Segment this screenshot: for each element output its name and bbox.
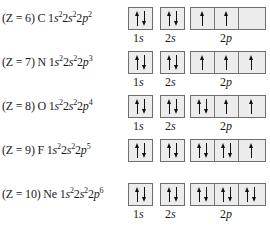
- electron-configuration: (Z = 9) F 1s22s22p5: [2, 143, 90, 158]
- spin-up-arrow-icon: [135, 11, 140, 26]
- label-1s: 1s: [133, 119, 144, 134]
- element-row-o: (Z = 8) O 1s22s22p41s2s2p: [0, 95, 270, 139]
- spin-up-arrow-icon: [197, 143, 202, 158]
- element-row-ne: (Z = 10) Ne 1s22s22p61s2s2p: [0, 183, 270, 227]
- element-symbol: F: [38, 143, 47, 157]
- orbital-box-1s: [128, 95, 153, 118]
- spin-down-arrow-icon: [228, 187, 233, 202]
- orbital-box-2s: [160, 95, 185, 118]
- label-2s: 2s: [165, 75, 176, 90]
- spin-up-arrow-icon: [135, 55, 140, 70]
- element-symbol: C: [38, 11, 49, 25]
- spin-up-arrow-icon: [167, 55, 172, 70]
- spin-up-arrow-icon: [249, 55, 254, 70]
- atomic-number: (Z = 8): [2, 99, 38, 113]
- orbital-cell: [215, 184, 239, 205]
- orbital-cell: [129, 52, 152, 73]
- orbital-box-2s: [160, 7, 185, 30]
- orbital-box-2p: [190, 7, 266, 30]
- orbital-cell: [239, 8, 263, 29]
- label-2p: 2p: [220, 119, 232, 134]
- spin-down-arrow-icon: [174, 187, 179, 202]
- orbital-cell: [129, 140, 152, 161]
- orbital-box-2s: [160, 183, 185, 206]
- label-1s: 1s: [133, 31, 144, 46]
- label-2s: 2s: [165, 31, 176, 46]
- spin-up-arrow-icon: [200, 55, 205, 70]
- element-row-c: (Z = 6) C 1s22s22p21s2s2p: [0, 7, 270, 51]
- orbital-cell: [161, 96, 184, 117]
- orbital-cell: [191, 52, 215, 73]
- spin-up-arrow-icon: [249, 143, 254, 158]
- orbital-cell: [161, 184, 184, 205]
- orbital-box-2p: [190, 95, 266, 118]
- spin-down-arrow-icon: [142, 11, 147, 26]
- orbital-cell: [129, 184, 152, 205]
- spin-up-arrow-icon: [221, 187, 226, 202]
- spin-down-arrow-icon: [204, 187, 209, 202]
- spin-up-arrow-icon: [135, 99, 140, 114]
- spin-down-arrow-icon: [174, 99, 179, 114]
- orbital-box-1s: [128, 139, 153, 162]
- orbital-cell: [239, 140, 263, 161]
- spin-down-arrow-icon: [174, 11, 179, 26]
- orbital-cell: [215, 96, 239, 117]
- orbital-box-2p: [190, 139, 266, 162]
- spin-up-arrow-icon: [221, 143, 226, 158]
- orbital-box-2p: [190, 51, 266, 74]
- orbital-box-1s: [128, 7, 153, 30]
- spin-up-arrow-icon: [197, 99, 202, 114]
- spin-up-arrow-icon: [167, 143, 172, 158]
- spin-up-arrow-icon: [135, 143, 140, 158]
- electron-configuration: (Z = 7) N 1s22s22p3: [2, 55, 92, 70]
- orbital-box-2p: [190, 183, 266, 206]
- orbital-box-1s: [128, 183, 153, 206]
- spin-up-arrow-icon: [245, 187, 250, 202]
- orbital-cell: [161, 52, 184, 73]
- orbital-box-2s: [160, 51, 185, 74]
- spin-up-arrow-icon: [167, 11, 172, 26]
- orbital-cell: [129, 96, 152, 117]
- spin-down-arrow-icon: [142, 99, 147, 114]
- electron-configuration: (Z = 6) C 1s22s22p2: [2, 11, 92, 26]
- orbital-cell: [161, 140, 184, 161]
- spin-up-arrow-icon: [224, 99, 229, 114]
- spin-up-arrow-icon: [224, 11, 229, 26]
- orbital-cell: [191, 184, 215, 205]
- electron-configuration: (Z = 8) O 1s22s22p4: [2, 99, 92, 114]
- spin-up-arrow-icon: [249, 99, 254, 114]
- orbital-cell: [239, 96, 263, 117]
- spin-up-arrow-icon: [135, 187, 140, 202]
- spin-down-arrow-icon: [142, 55, 147, 70]
- orbital-cell: [215, 140, 239, 161]
- spin-down-arrow-icon: [204, 99, 209, 114]
- spin-up-arrow-icon: [167, 99, 172, 114]
- orbital-cell: [191, 96, 215, 117]
- atomic-number: (Z = 6): [2, 11, 38, 25]
- label-2p: 2p: [220, 207, 232, 222]
- label-1s: 1s: [133, 207, 144, 222]
- orbital-cell: [191, 140, 215, 161]
- atomic-number: (Z = 10): [2, 187, 43, 201]
- spin-down-arrow-icon: [142, 187, 147, 202]
- element-row-n: (Z = 7) N 1s22s22p31s2s2p: [0, 51, 270, 95]
- label-1s: 1s: [133, 75, 144, 90]
- spin-up-arrow-icon: [197, 187, 202, 202]
- element-symbol: Ne: [43, 187, 59, 201]
- spin-up-arrow-icon: [167, 187, 172, 202]
- orbital-box-2s: [160, 139, 185, 162]
- spin-down-arrow-icon: [142, 143, 147, 158]
- element-row-f: (Z = 9) F 1s22s22p5: [0, 139, 270, 183]
- orbital-cell: [215, 52, 239, 73]
- spin-up-arrow-icon: [200, 11, 205, 26]
- spin-down-arrow-icon: [228, 143, 233, 158]
- element-symbol: N: [38, 55, 49, 69]
- spin-up-arrow-icon: [224, 55, 229, 70]
- spin-down-arrow-icon: [174, 55, 179, 70]
- label-2p: 2p: [220, 75, 232, 90]
- orbital-box-1s: [128, 51, 153, 74]
- atomic-number: (Z = 9): [2, 143, 38, 157]
- orbital-cell: [129, 8, 152, 29]
- spin-down-arrow-icon: [252, 187, 257, 202]
- orbital-cell: [161, 8, 184, 29]
